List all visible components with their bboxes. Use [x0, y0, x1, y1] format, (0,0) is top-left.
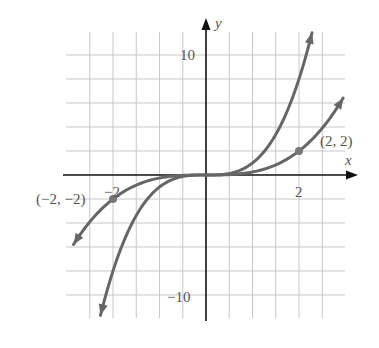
point-marker — [295, 147, 303, 155]
curve-quarter-x-cubed — [73, 98, 343, 244]
curves — [73, 33, 343, 316]
x-axis-label: x — [344, 152, 352, 168]
x-axis-arrow-icon — [346, 171, 358, 180]
tick-label-y-10: 10 — [180, 47, 195, 63]
point-label-2-2: (2, 2) — [320, 133, 353, 150]
tick-label-x-2: 2 — [295, 184, 303, 200]
axes — [63, 18, 358, 321]
cubic-functions-graph: y x 10 −10 −2 2 (2, 2) (−2, −2) — [0, 0, 379, 348]
y-axis-arrow-icon — [202, 18, 211, 30]
tick-label-y-neg10: −10 — [167, 289, 190, 305]
point-label-neg2-neg2: (−2, −2) — [36, 191, 85, 208]
tick-label-x-neg2: −2 — [104, 184, 120, 200]
y-axis-label: y — [213, 15, 222, 31]
